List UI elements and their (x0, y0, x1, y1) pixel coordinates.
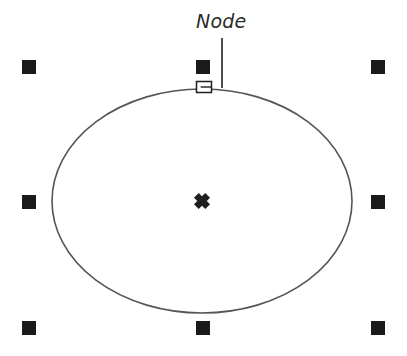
handle-top-center[interactable] (196, 60, 210, 74)
node-label: Node (196, 12, 246, 31)
center-cross-icon (194, 193, 210, 209)
diagram-canvas: Node (0, 0, 407, 356)
diagram-svg (0, 0, 407, 356)
handle-middle-right[interactable] (371, 195, 385, 209)
handle-bottom-center[interactable] (196, 321, 210, 335)
node-handle-icon[interactable] (197, 82, 212, 93)
handle-top-left[interactable] (22, 60, 36, 74)
handle-top-right[interactable] (371, 60, 385, 74)
handle-middle-left[interactable] (22, 195, 36, 209)
handle-bottom-left[interactable] (22, 321, 36, 335)
handle-bottom-right[interactable] (371, 321, 385, 335)
